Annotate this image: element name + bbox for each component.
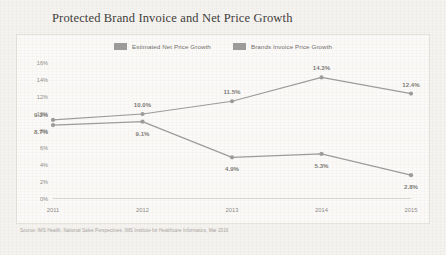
y-axis-tick: 14%: [37, 77, 48, 83]
chart-series-svg: [53, 63, 411, 199]
legend-swatch-icon: [233, 43, 246, 50]
y-axis-tick: 16%: [37, 60, 48, 66]
y-axis-tick: 2%: [40, 179, 48, 185]
series-marker[interactable]: [409, 173, 413, 177]
y-axis-tick: 4%: [40, 162, 48, 168]
series-marker[interactable]: [140, 120, 144, 124]
series-marker[interactable]: [230, 99, 234, 103]
legend-item-brands-invoice-price-growth[interactable]: Brands Invoice Price Growth: [233, 43, 332, 50]
x-axis-tick: 2013: [226, 207, 239, 213]
x-axis-tick: 2015: [405, 207, 418, 213]
legend-swatch-icon: [114, 43, 127, 50]
data-label: 14.3%: [313, 64, 330, 71]
chart-plot-area: 0%2%4%6%8%10%12%14%16% 20112012201320142…: [53, 63, 411, 199]
series-marker[interactable]: [230, 155, 234, 159]
series-marker[interactable]: [319, 75, 323, 79]
page-title: Protected Brand Invoice and Net Price Gr…: [52, 11, 293, 26]
series-marker[interactable]: [51, 123, 55, 127]
data-label: 9.1%: [136, 129, 150, 136]
chart-plot-card: Estimated Net Price Growth Brands Invoic…: [16, 34, 430, 224]
chart-figure: Protected Brand Invoice and Net Price Gr…: [0, 0, 446, 255]
data-label: 5.3%: [315, 161, 329, 168]
source-note: Source: IMS Health, National Sales Persp…: [20, 228, 228, 233]
data-label: 8.7%: [34, 128, 48, 135]
x-axis-tick: 2014: [315, 207, 328, 213]
data-label: 2.8%: [404, 183, 418, 190]
chart-legend: Estimated Net Price Growth Brands Invoic…: [17, 43, 429, 50]
data-label: 4.9%: [225, 165, 239, 172]
series-marker[interactable]: [319, 152, 323, 156]
legend-label: Estimated Net Price Growth: [132, 43, 211, 50]
series-marker[interactable]: [140, 112, 144, 116]
data-label: 12.4%: [402, 80, 419, 87]
data-label: 11.5%: [224, 88, 241, 95]
legend-label: Brands Invoice Price Growth: [251, 43, 332, 50]
series-line: [53, 77, 411, 120]
y-axis-tick: 0%: [40, 196, 48, 202]
data-label: 9.3%: [34, 110, 48, 117]
y-axis-tick: 12%: [37, 94, 48, 100]
legend-item-estimated-net-price-growth[interactable]: Estimated Net Price Growth: [114, 43, 211, 50]
x-axis-tick: 2011: [47, 207, 59, 213]
series-marker[interactable]: [409, 92, 413, 96]
data-label: 10.0%: [134, 101, 151, 108]
series-marker[interactable]: [51, 118, 55, 122]
y-axis-tick: 6%: [40, 145, 48, 151]
x-axis-tick: 2012: [136, 207, 149, 213]
